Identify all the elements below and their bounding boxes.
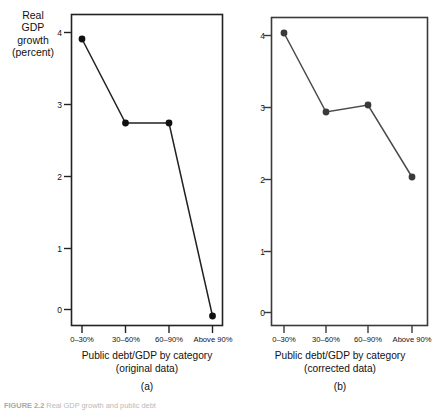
- x-axis-ticks: [82, 326, 213, 334]
- x-axis-ticks: [284, 326, 412, 334]
- x-axis-caption-b-line-1: Public debt/GDP by category: [224, 350, 445, 363]
- plot-area-b: [236, 0, 445, 340]
- data-line-series: [284, 33, 412, 177]
- x-tick-label-30-60: 30–60%: [304, 335, 348, 344]
- data-points: [79, 36, 216, 320]
- x-tick-label-60-90: 60–90%: [346, 335, 390, 344]
- x-tick-label-above-90: Above 90%: [385, 335, 439, 344]
- y-axis-ticks: [64, 33, 72, 310]
- x-tick-label-0-30: 0–30%: [264, 335, 304, 344]
- figure-caption-text: Real GDP growth and public debt: [46, 401, 156, 410]
- figure-container: Real GDP growth (percent) 4 3 2 1 0: [0, 0, 445, 411]
- plot-area-a: [0, 0, 240, 340]
- x-tick-label-above-90: Above 90%: [186, 335, 240, 344]
- x-axis-caption-b: Public debt/GDP by category (corrected d…: [224, 350, 445, 375]
- x-tick-label-0-30: 0–30%: [62, 335, 102, 344]
- y-axis-ticks: [264, 36, 272, 313]
- data-point: [209, 313, 216, 320]
- panel-letter-b: (b): [224, 381, 445, 392]
- data-point: [323, 109, 330, 116]
- data-point: [281, 30, 288, 37]
- data-point: [365, 102, 372, 109]
- figure-caption: FIGURE 2.2 Real GDP growth and public de…: [4, 401, 441, 410]
- data-point: [79, 36, 86, 43]
- x-axis-caption-b-line-2: (corrected data): [224, 363, 445, 376]
- data-point: [166, 120, 173, 127]
- chart-panel-b: 4 3 2 1 0: [236, 0, 445, 400]
- data-line-series: [82, 39, 213, 316]
- x-tick-label-60-90: 60–90%: [147, 335, 191, 344]
- chart-panel-a: Real GDP growth (percent) 4 3 2 1 0: [0, 0, 240, 400]
- plot-frame: [272, 18, 428, 326]
- data-point: [122, 120, 129, 127]
- x-tick-label-30-60: 30–60%: [104, 335, 148, 344]
- data-point: [409, 174, 416, 181]
- figure-caption-number: FIGURE 2.2: [4, 401, 44, 410]
- data-points: [281, 30, 416, 181]
